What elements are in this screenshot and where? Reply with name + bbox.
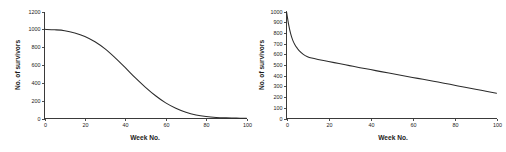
- x-tick-label: 100: [493, 122, 502, 128]
- y-tick-label: 300: [274, 83, 283, 89]
- y-tick-label: 400: [32, 80, 41, 86]
- y-tick-label: 0: [280, 116, 283, 122]
- y-tick-label: 1200: [29, 9, 41, 15]
- x-tick-label: 80: [204, 122, 210, 128]
- x-tick-label: 40: [369, 122, 375, 128]
- y-tick-label: 800: [32, 44, 41, 50]
- left-chart-x-tick-labels: 020406080100: [44, 122, 252, 128]
- y-tick-label: 900: [274, 19, 283, 25]
- x-tick-label: 20: [83, 122, 89, 128]
- right-chart-survivorship-curve: [287, 12, 497, 94]
- x-tick-label: 0: [286, 122, 289, 128]
- left-chart-y-tick-labels: 020040060080010001200: [29, 9, 41, 122]
- left-chart-x-axis-title: Week No.: [130, 134, 160, 141]
- survivorship-curves-figure: 020040060080010001200 020406080100 Week …: [0, 0, 506, 152]
- y-tick-label: 400: [274, 73, 283, 79]
- right-chart-x-axis-title: Week No.: [378, 134, 408, 141]
- left-chart-svg: 020040060080010001200 020406080100 Week …: [0, 0, 253, 152]
- y-tick-label: 700: [274, 41, 283, 47]
- chart-panel-right: 01002003004005006007008009001000 0204060…: [253, 0, 506, 152]
- y-tick-label: 200: [32, 98, 41, 104]
- y-tick-label: 800: [274, 30, 283, 36]
- left-chart-y-axis-title: No. of survivors: [14, 40, 21, 91]
- y-tick-label: 1000: [271, 9, 283, 15]
- right-chart-y-tick-labels: 01002003004005006007008009001000: [271, 9, 283, 122]
- right-chart-y-axis-title: No. of survivors: [258, 40, 265, 91]
- x-tick-label: 40: [123, 122, 129, 128]
- x-tick-label: 80: [453, 122, 459, 128]
- y-tick-label: 500: [274, 62, 283, 68]
- y-tick-label: 0: [38, 116, 41, 122]
- chart-panel-left: 020040060080010001200 020406080100 Week …: [0, 0, 253, 152]
- y-tick-label: 200: [274, 94, 283, 100]
- y-tick-label: 600: [32, 62, 41, 68]
- x-tick-label: 20: [327, 122, 333, 128]
- y-tick-label: 100: [274, 105, 283, 111]
- x-tick-label: 100: [243, 122, 252, 128]
- y-tick-label: 1000: [29, 26, 41, 32]
- right-chart-x-tick-labels: 020406080100: [286, 122, 502, 128]
- left-chart-survivorship-curve: [45, 29, 247, 118]
- y-tick-label: 600: [274, 51, 283, 57]
- x-tick-label: 60: [411, 122, 417, 128]
- x-tick-label: 60: [164, 122, 170, 128]
- x-tick-label: 0: [44, 122, 47, 128]
- right-chart-svg: 01002003004005006007008009001000 0204060…: [253, 0, 506, 152]
